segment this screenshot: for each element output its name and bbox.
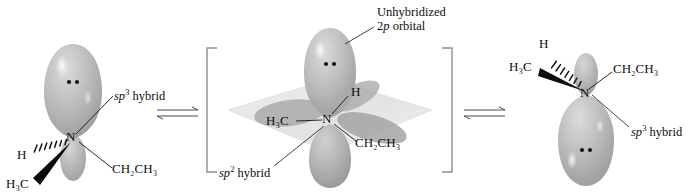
right-sp3-orbital-text: sp xyxy=(631,125,642,139)
equilibrium-arrow-right-art xyxy=(464,107,505,119)
unhybridized-label-line2: 2p orbital xyxy=(377,20,425,33)
right-center-atom-N: N xyxy=(580,86,589,99)
left-sp3-hybrid-word: hybrid xyxy=(133,89,166,103)
center-sp2-orbital-text: sp xyxy=(219,166,230,180)
left-substituent-H: H xyxy=(17,148,26,161)
equilibrium-arrow-left-art xyxy=(157,107,198,119)
figure-canvas: N sp3 hybrid H H₃C CH₂CH₃ Unhybridized 2… xyxy=(0,0,691,196)
right-substituent-H: H xyxy=(539,37,548,50)
left-sp3-orbital-text: sp xyxy=(114,89,125,103)
center-sp2-superscript: 2 xyxy=(230,164,234,174)
left-substituent-H3C: H₃C xyxy=(6,177,29,190)
orbital-word: orbital xyxy=(390,19,426,33)
center-sp2-hybrid-label: sp2 hybrid xyxy=(219,165,270,180)
center-substituent-H: H xyxy=(351,85,360,98)
center-structure-art xyxy=(228,27,432,188)
right-substituent-H3C: H₃C xyxy=(509,60,532,73)
center-substituent-H3C: H₃C xyxy=(266,114,289,127)
unhybridized-label-line1: Unhybridized xyxy=(377,6,446,19)
left-center-atom-N: N xyxy=(66,130,75,143)
center-atom-N: N xyxy=(322,112,331,125)
left-substituent-CH2CH3: CH₂CH₃ xyxy=(112,162,157,175)
right-sp3-hybrid-label: sp3 hybrid xyxy=(631,124,682,139)
center-substituent-CH2CH3: CH₂CH₃ xyxy=(355,136,400,149)
center-sp2-hybrid-word: hybrid xyxy=(238,166,271,180)
left-structure-art xyxy=(33,44,113,185)
right-sp3-superscript: 3 xyxy=(642,123,646,133)
right-sp3-hybrid-word: hybrid xyxy=(650,125,683,139)
left-sp3-hybrid-label: sp3 hybrid xyxy=(114,88,165,103)
left-sp3-superscript: 3 xyxy=(125,87,129,97)
right-substituent-CH2CH3: CH₂CH₃ xyxy=(613,62,658,75)
